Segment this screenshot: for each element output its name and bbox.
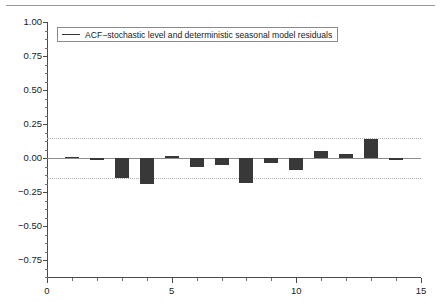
acf-bar — [314, 151, 328, 158]
y-axis-tick-label: 0.00 — [24, 153, 43, 163]
y-axis-tick-label: −0.50 — [18, 221, 42, 231]
x-axis-minor-tick — [396, 278, 397, 281]
y-axis-tick-label: 0.75 — [24, 51, 43, 61]
legend-line-swatch-icon — [62, 34, 80, 35]
y-axis-tick-label: −0.25 — [18, 187, 42, 197]
legend: ACF−stochastic level and deterministic s… — [57, 27, 338, 42]
acf-bar — [115, 158, 129, 178]
acf-bar — [165, 156, 179, 158]
acf-bar — [190, 158, 204, 167]
acf-bar — [264, 158, 278, 163]
x-axis-minor-tick — [321, 278, 322, 281]
x-axis-tick-label: 0 — [44, 285, 49, 296]
acf-bar — [215, 158, 229, 165]
x-axis-major-tick — [47, 278, 48, 283]
acf-bar — [364, 139, 378, 158]
acf-bar — [140, 158, 154, 184]
x-axis-tick-label: 10 — [291, 285, 302, 296]
acf-chart-figure: 1.000.750.500.250.00−0.25−0.50−0.75 0510… — [0, 0, 441, 307]
x-axis-minor-tick — [72, 278, 73, 281]
x-axis-minor-tick — [371, 278, 372, 281]
x-axis-major-tick — [296, 278, 297, 283]
x-axis-major-tick — [421, 278, 422, 283]
x-axis-major-tick — [172, 278, 173, 283]
y-axis-tick-label-group: 1.000.750.500.250.00−0.25−0.50−0.75 — [0, 0, 42, 307]
x-axis-tick-label: 15 — [416, 285, 427, 296]
x-axis-minor-tick — [147, 278, 148, 281]
x-axis-minor-tick — [122, 278, 123, 281]
x-axis-minor-tick — [346, 278, 347, 281]
x-axis-tick-label: 5 — [169, 285, 174, 296]
y-axis-tick-label: 0.25 — [24, 119, 43, 129]
x-axis-minor-tick — [97, 278, 98, 281]
acf-bar — [239, 158, 253, 183]
top-horizontal-rule — [6, 5, 435, 6]
acf-bar — [289, 158, 303, 170]
confidence-band-line-lower — [47, 178, 421, 179]
x-axis-spine — [47, 277, 421, 278]
x-axis-minor-tick — [197, 278, 198, 281]
x-axis-minor-tick — [271, 278, 272, 281]
y-axis-tick-label: −0.75 — [18, 255, 42, 265]
acf-bar — [339, 154, 353, 158]
y-axis-tick-label: 1.00 — [24, 17, 43, 27]
acf-bar — [90, 158, 104, 160]
x-axis-minor-tick — [222, 278, 223, 281]
acf-bar — [65, 157, 79, 159]
legend-label: ACF−stochastic level and deterministic s… — [85, 30, 332, 40]
x-axis-minor-tick — [246, 278, 247, 281]
plot-area — [47, 22, 421, 277]
acf-bar — [389, 158, 403, 160]
y-axis-tick-label: 0.50 — [24, 85, 43, 95]
